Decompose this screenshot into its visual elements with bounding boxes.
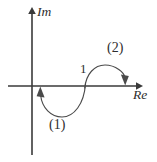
contour-diagram-canvas: [0, 0, 157, 162]
real-axis: [8, 82, 143, 90]
complex-plane-figure: Im Re (1) (2) 1: [0, 0, 157, 162]
imaginary-axis: [28, 7, 36, 155]
contour-branch-1: [37, 84, 86, 117]
contour-branch-1-path: [41, 84, 86, 117]
contour-branch-2: [85, 65, 129, 88]
branch-2-label: (2): [107, 41, 123, 55]
real-axis-label: Re: [133, 88, 147, 102]
contour-branch-2-arrowhead: [121, 75, 129, 86]
branch-1-label: (1): [49, 118, 65, 132]
contour-branch-1-arrowhead: [37, 87, 45, 98]
point-one-label: 1: [80, 62, 87, 75]
imaginary-axis-label: Im: [37, 5, 51, 19]
contour-branch-2-path: [85, 65, 125, 88]
imaginary-axis-arrowhead: [28, 7, 36, 14]
